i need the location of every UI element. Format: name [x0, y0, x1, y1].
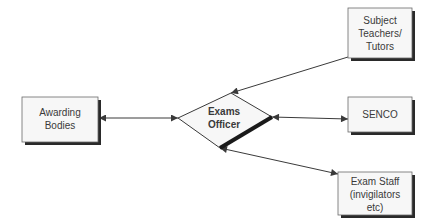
edge-subject-teachers-exams-officer — [231, 57, 348, 93]
node-label-line: Bodies — [45, 120, 76, 131]
node-exam-staff[interactable]: Exam Staff (invigilators etc) — [338, 172, 415, 218]
node-awarding-bodies[interactable]: Awarding Bodies — [22, 97, 101, 145]
node-label-line: (invigilators — [350, 189, 401, 200]
node-label-line: Tutors — [366, 41, 394, 52]
node-subject-teachers[interactable]: Subject Teachers/ Tutors — [348, 8, 415, 61]
node-label-line: Officer — [208, 119, 240, 130]
node-label-line: Exams — [208, 106, 241, 117]
diagram-canvas: Awarding Bodies Exams Officer Subject Te… — [0, 0, 443, 222]
node-label-line: SENCO — [362, 109, 398, 120]
node-exams-officer[interactable]: Exams Officer — [178, 93, 272, 148]
edge-exams-officer-senco — [272, 117, 348, 119]
node-label-line: Awarding — [39, 107, 81, 118]
node-label-line: Subject — [363, 15, 397, 26]
node-label-line: etc) — [367, 202, 384, 213]
node-label-line: Teachers/ — [358, 28, 402, 39]
edge-exams-officer-exam-staff — [220, 148, 338, 174]
node-senco[interactable]: SENCO — [348, 97, 415, 135]
node-label-line: Exam Staff — [351, 176, 400, 187]
